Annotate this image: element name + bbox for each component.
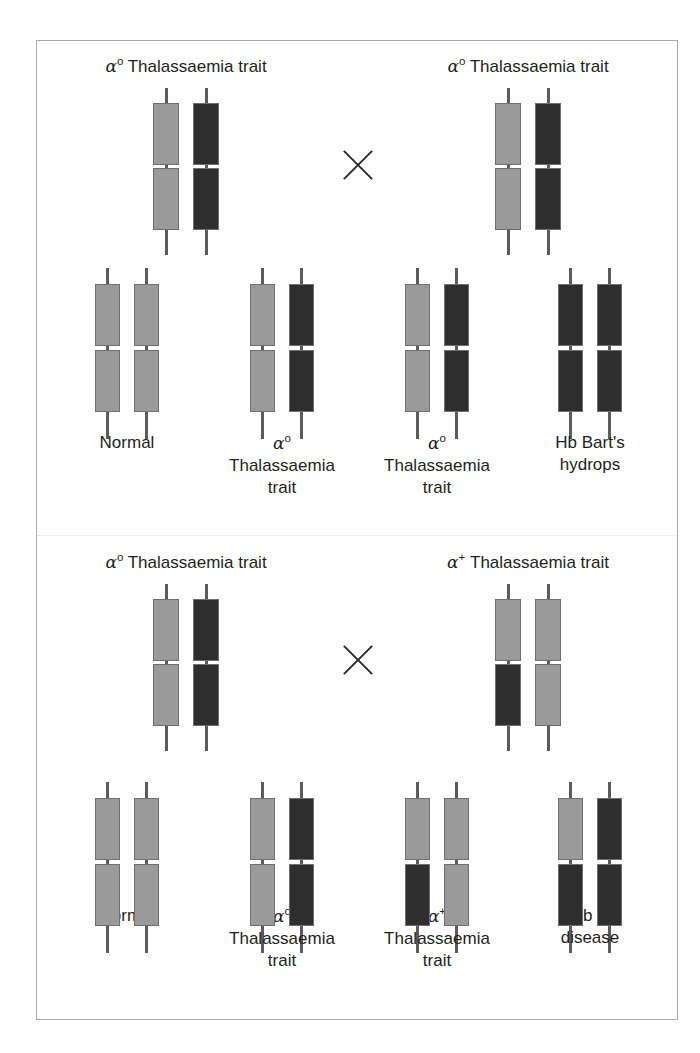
chromosome [597,268,622,439]
gene-block-deleted [495,664,521,726]
offspring-label-6: αo Thalassaemia trait [195,905,369,972]
parent-label-top-right: αo Thalassaemia trait [378,56,678,77]
allele-superscript: o [285,432,291,444]
alpha-glyph: α [428,433,439,453]
gene-block-deleted [597,350,622,412]
gene-block-deleted [597,864,622,926]
offspring-label-2: αo Thalassaemia trait [195,432,369,499]
offspring-label-5: Normal [50,905,204,927]
parent-label-text: Thalassaemia trait [465,57,608,76]
offspring-label-line3: trait [350,950,524,972]
gene-block-normal [134,798,159,860]
gene-block-normal [95,350,120,412]
offspring-label-line2: Thalassaemia [350,928,524,950]
chromosome [193,88,219,255]
offspring-label-line2: hydrops [505,454,675,476]
chromosome [405,268,430,439]
gene-block-normal [495,103,521,165]
offspring-chromosome-pair-3 [360,268,514,439]
gene-block-normal [250,350,275,412]
gene-block-deleted [535,103,561,165]
gene-block-normal [95,798,120,860]
gene-block-deleted [289,350,314,412]
cross-symbol-top [338,145,378,185]
parent-label-bottom-right: α+ Thalassaemia trait [378,552,678,573]
gene-block-normal [95,284,120,346]
gene-block-deleted [444,284,469,346]
gene-block-normal [134,350,159,412]
gene-block-deleted [597,284,622,346]
alpha-glyph: α [273,433,284,453]
gene-block-normal [405,350,430,412]
offspring-label-8: Hb H disease [505,905,675,949]
alpha-glyph: α [105,56,116,76]
section-divider [38,535,676,536]
gene-block-normal [444,864,469,926]
chromosome [558,268,583,439]
offspring-label-line2: Thalassaemia [195,455,369,477]
alpha-glyph: α [105,552,116,572]
chromosome [153,88,179,255]
offspring-chromosome-pair-2 [205,268,359,439]
offspring-label-4: Hb Bart's hydrops [505,432,675,476]
gene-block-normal [405,284,430,346]
chromosome [153,584,179,751]
offspring-label-line3: trait [195,477,369,499]
offspring-chromosome-pair-4 [513,268,667,439]
parent-chromosome-pair-bottom-right [378,584,678,751]
gene-block-normal [250,864,275,926]
thalassaemia-inheritance-figure: αo Thalassaemia trait αo Thalassaemia tr… [0,0,700,1053]
offspring-label-7: α+ Thalassaemia trait [350,905,524,972]
parent-chromosome-pair-top-right [378,88,678,255]
gene-block-deleted [405,864,430,926]
gene-block-normal [495,599,521,661]
gene-block-normal [134,864,159,926]
cross-symbol-bottom [338,640,378,680]
parent-chromosome-pair-bottom-left [36,584,336,751]
chromosome [495,584,521,751]
gene-block-normal [535,599,561,661]
chromosome [495,88,521,255]
chromosome [535,88,561,255]
gene-block-deleted [289,798,314,860]
gene-block-normal [250,798,275,860]
parent-label-text: Thalassaemia trait [123,553,266,572]
gene-block-normal [444,798,469,860]
gene-block-normal [405,798,430,860]
gene-block-normal [535,664,561,726]
gene-block-normal [134,284,159,346]
offspring-label-line1: Hb Bart's [555,433,624,452]
chromosome [444,268,469,439]
gene-block-normal [495,168,521,230]
gene-block-deleted [558,284,583,346]
gene-block-normal [153,599,179,661]
gene-block-deleted [597,798,622,860]
parent-label-text: Thalassaemia trait [465,553,609,572]
chromosome [250,268,275,439]
offspring-label-line3: trait [350,477,524,499]
chromosome [95,782,120,953]
offspring-label-line2: Thalassaemia [350,455,524,477]
chromosome [134,782,159,953]
gene-block-normal [153,168,179,230]
gene-block-deleted [193,664,219,726]
alpha-glyph: α [447,552,458,572]
gene-block-deleted [558,350,583,412]
gene-block-deleted [444,350,469,412]
gene-block-deleted [193,599,219,661]
gene-block-normal [95,864,120,926]
gene-block-deleted [535,168,561,230]
chromosome [289,268,314,439]
offspring-label-line2: Thalassaemia [195,928,369,950]
offspring-label-3: αo Thalassaemia trait [350,432,524,499]
gene-block-deleted [193,168,219,230]
chromosome [134,268,159,439]
chromosome [95,268,120,439]
gene-block-normal [153,103,179,165]
gene-block-normal [250,284,275,346]
chromosome [193,584,219,751]
offspring-chromosome-pair-5 [50,782,204,953]
chromosome [535,584,561,751]
allele-superscript: o [440,432,446,444]
offspring-label-1: Normal [50,432,204,454]
